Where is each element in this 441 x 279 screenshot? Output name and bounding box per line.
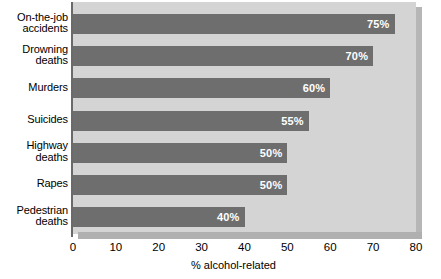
bar: 55% bbox=[73, 111, 309, 131]
bar: 50% bbox=[73, 143, 287, 163]
x-tick-label: 70 bbox=[367, 241, 380, 253]
category-label: Rapes bbox=[0, 178, 68, 190]
x-tick-label: 10 bbox=[109, 241, 122, 253]
x-tick-label: 50 bbox=[281, 241, 294, 253]
bar-value-label: 60% bbox=[303, 82, 326, 94]
x-tick-label: 40 bbox=[238, 241, 251, 253]
bar-value-label: 50% bbox=[260, 147, 283, 159]
x-tick-label: 30 bbox=[195, 241, 208, 253]
bar-chart: On-the-jobaccidentsDrowningdeathsMurders… bbox=[0, 0, 441, 279]
category-label: On-the-jobaccidents bbox=[0, 12, 68, 35]
bar: 75% bbox=[73, 14, 395, 34]
category-axis-labels: On-the-jobaccidentsDrowningdeathsMurders… bbox=[0, 2, 68, 230]
bar-value-label: 40% bbox=[217, 211, 240, 223]
category-label: Murders bbox=[0, 82, 68, 94]
category-label-line: Suicides bbox=[0, 114, 68, 126]
bar: 70% bbox=[73, 46, 373, 66]
bar-value-label: 70% bbox=[346, 50, 369, 62]
bar: 50% bbox=[73, 175, 287, 195]
category-label-line: deaths bbox=[0, 55, 68, 67]
x-tick-label: 60 bbox=[324, 241, 337, 253]
plot-base-strip bbox=[78, 232, 422, 239]
category-label: Drowningdeaths bbox=[0, 44, 68, 67]
category-label: Suicides bbox=[0, 114, 68, 126]
bar-value-label: 75% bbox=[367, 18, 390, 30]
x-tick-label: 0 bbox=[70, 241, 76, 253]
bar-series: 75%70%60%55%50%50%40% bbox=[73, 2, 416, 232]
bar: 40% bbox=[73, 207, 245, 227]
bar-value-label: 55% bbox=[281, 115, 304, 127]
category-label-line: Rapes bbox=[0, 178, 68, 190]
x-axis-tick-labels: 01020304050607080 bbox=[0, 241, 441, 257]
category-label-line: deaths bbox=[0, 152, 68, 164]
category-label-line: Murders bbox=[0, 82, 68, 94]
x-axis-title: % alcohol-related bbox=[0, 259, 441, 271]
category-label-line: deaths bbox=[0, 216, 68, 228]
bar-value-label: 50% bbox=[260, 179, 283, 191]
bar: 60% bbox=[73, 78, 330, 98]
x-tick-label: 20 bbox=[152, 241, 165, 253]
category-label: Pedestriandeaths bbox=[0, 205, 68, 228]
x-tick-label: 80 bbox=[410, 241, 423, 253]
category-label: Highwaydeaths bbox=[0, 140, 68, 163]
category-label-line: accidents bbox=[0, 23, 68, 35]
x-axis-title-text: % alcohol-related bbox=[191, 259, 276, 271]
